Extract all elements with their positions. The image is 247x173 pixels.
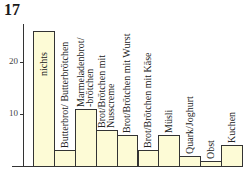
y-tick-label: 10 (2, 108, 18, 118)
bar (158, 135, 180, 167)
bar (200, 161, 222, 167)
category-label: Quark/Joghurt (185, 96, 195, 154)
category-label: Butterbrot/ Butterbrötchen (60, 42, 70, 148)
category-label: Kuchen (227, 112, 237, 143)
category-label: Nusscreme (106, 83, 116, 127)
category-label: Brot/Brötchen mit Wurst (122, 33, 132, 132)
category-label: Müsli (164, 109, 174, 132)
y-tick (20, 114, 24, 115)
bar (117, 135, 139, 167)
bar (221, 145, 243, 167)
y-axis (23, 24, 24, 167)
category-label: -brötchen (85, 68, 95, 106)
y-tick-label: 20 (2, 56, 18, 66)
bar (179, 156, 201, 167)
category-label: nichts (39, 52, 49, 76)
bar (96, 130, 118, 167)
y-tick (20, 62, 24, 63)
bar (138, 150, 160, 167)
bar (75, 109, 97, 167)
bar (54, 150, 76, 167)
category-label: Brot/Brötchen mit Käse (143, 53, 153, 149)
bar-chart: 1020nichtsButterbrot/ ButterbrötchenMarm… (0, 0, 247, 173)
category-label: Obst (206, 140, 216, 159)
